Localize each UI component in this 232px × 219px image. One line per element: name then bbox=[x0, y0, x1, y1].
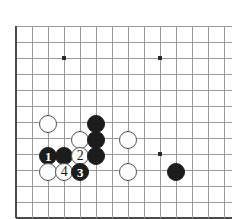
star-point bbox=[62, 56, 66, 60]
move-number-label: 4 bbox=[61, 165, 68, 179]
stone-white[interactable] bbox=[119, 163, 137, 181]
move-number-label: 2 bbox=[77, 149, 84, 163]
stone-black[interactable] bbox=[87, 147, 105, 165]
star-point bbox=[158, 152, 162, 156]
stone-white[interactable] bbox=[39, 115, 57, 133]
board-grid bbox=[0, 0, 232, 219]
go-board-diagram: 1243 bbox=[0, 0, 232, 219]
move-number-label: 1 bbox=[45, 150, 51, 163]
star-point bbox=[158, 56, 162, 60]
move-stone-black-3[interactable]: 3 bbox=[71, 163, 89, 181]
move-number-label: 3 bbox=[77, 166, 83, 179]
stone-black[interactable] bbox=[167, 163, 185, 181]
stone-white[interactable] bbox=[119, 131, 137, 149]
